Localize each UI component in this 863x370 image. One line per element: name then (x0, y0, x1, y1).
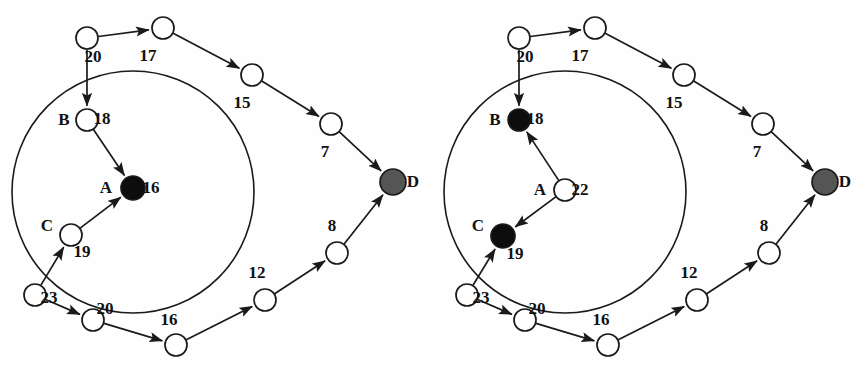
node-value-label-L2: 17 (140, 46, 158, 65)
node-value-label-LA: 16 (143, 178, 160, 197)
node-letter-label-C-right: C (472, 216, 484, 235)
edge-R4-to-RD (771, 132, 813, 171)
edge-LB-to-LA (93, 130, 124, 176)
node-circle-R4[interactable] (752, 113, 774, 135)
node-LC-C[interactable]: 19C (41, 216, 91, 261)
edge-R3-to-R4 (694, 81, 751, 116)
edge-R1-to-R2 (530, 30, 581, 37)
node-value-label-L9: 8 (328, 216, 337, 235)
node-circle-L2[interactable] (152, 17, 174, 39)
node-value-label-R5: 23 (473, 288, 490, 307)
edge-L6-to-L7 (104, 323, 162, 341)
node-circle-LA[interactable] (121, 176, 145, 200)
node-L2[interactable]: 17 (140, 17, 175, 65)
node-R8[interactable]: 12 (681, 263, 709, 311)
edge-L3-to-L4 (262, 81, 319, 116)
node-circle-L4[interactable] (320, 113, 342, 135)
node-letter-label-B-right: B (489, 110, 500, 129)
node-circle-L3[interactable] (241, 64, 263, 86)
node-circle-R8[interactable] (686, 289, 708, 311)
node-L3[interactable]: 15 (234, 64, 264, 112)
node-circle-L7[interactable] (165, 334, 187, 356)
node-value-label-R1: 20 (517, 47, 534, 66)
node-L4[interactable]: 7 (320, 113, 342, 161)
edge-L9-to-LD (344, 195, 383, 244)
node-L9[interactable]: 8 (326, 216, 348, 264)
node-circle-RD[interactable] (812, 169, 838, 195)
node-RA-A[interactable]: 22A (534, 179, 589, 201)
node-value-label-RB: 18 (527, 109, 544, 128)
node-LB-B[interactable]: 18B (58, 109, 110, 131)
node-value-label-LC: 19 (74, 242, 91, 261)
edge-RA-to-RB (527, 132, 559, 181)
edge-group-right (473, 30, 815, 341)
node-value-label-L1: 20 (85, 47, 102, 66)
node-L8[interactable]: 12 (249, 263, 277, 311)
edge-L1-to-L2 (98, 30, 149, 37)
edge-L5-to-LC (41, 247, 64, 285)
graph-panel-left: 2017157D18B16A19C232016128 (12, 17, 419, 356)
node-R3[interactable]: 15 (666, 64, 696, 112)
node-value-label-RA: 22 (572, 180, 589, 199)
node-value-label-L4: 7 (321, 142, 330, 161)
node-value-label-R9: 8 (760, 216, 769, 235)
figure-canvas: 2017157D18B16A19C2320161282017157D18B22A… (0, 0, 863, 370)
node-letter-label-A-right: A (534, 180, 547, 199)
node-L7[interactable]: 16 (161, 310, 188, 356)
node-R7[interactable]: 16 (593, 310, 620, 356)
node-value-label-R4: 7 (753, 142, 762, 161)
node-circle-R2[interactable] (584, 17, 606, 39)
edge-R8-to-R9 (707, 261, 757, 294)
node-circle-L9[interactable] (326, 242, 348, 264)
edge-RA-to-RC (515, 197, 556, 227)
edge-L8-to-L9 (275, 261, 325, 294)
node-value-label-L6: 20 (97, 299, 114, 318)
node-circle-L8[interactable] (254, 289, 276, 311)
node-L5[interactable]: 23 (24, 284, 58, 307)
edge-R5-to-RC (473, 249, 495, 285)
edge-R6-to-R7 (536, 323, 594, 341)
graph-panel-right: 2017157D18B22A19C232016128 (444, 17, 851, 356)
node-value-label-R7: 16 (593, 310, 610, 329)
node-RC-C[interactable]: 19C (472, 216, 524, 263)
node-LD-D[interactable]: D (380, 169, 419, 195)
node-circle-L1[interactable] (76, 27, 98, 49)
edge-R7-to-R8 (618, 306, 684, 339)
node-circle-R9[interactable] (758, 242, 780, 264)
node-value-label-R6: 20 (529, 299, 546, 318)
node-LA-A[interactable]: 16A (100, 176, 160, 200)
node-value-label-L8: 12 (249, 263, 266, 282)
edge-L4-to-LD (339, 132, 381, 171)
node-value-label-R8: 12 (681, 263, 698, 282)
node-value-label-L5: 23 (41, 288, 58, 307)
node-R9[interactable]: 8 (758, 216, 780, 264)
node-R4[interactable]: 7 (752, 113, 774, 161)
node-L1[interactable]: 20 (76, 27, 102, 66)
node-RB-B[interactable]: 18B (489, 109, 543, 131)
node-value-label-R3: 15 (666, 93, 683, 112)
node-value-label-L7: 16 (161, 310, 178, 329)
node-value-label-RC: 19 (507, 244, 524, 263)
node-circle-R1[interactable] (508, 27, 530, 49)
node-RD-D[interactable]: D (812, 169, 851, 195)
node-letter-label-D-right: D (839, 172, 851, 191)
edge-LC-to-LA (80, 197, 121, 228)
node-letter-label-D-left: D (407, 172, 419, 191)
node-R5[interactable]: 23 (456, 284, 490, 307)
node-R2[interactable]: 17 (572, 17, 607, 65)
node-value-label-R2: 17 (572, 46, 590, 65)
node-value-label-LB: 18 (94, 109, 111, 128)
graph-diagram: 2017157D18B16A19C2320161282017157D18B22A… (0, 0, 863, 370)
node-R1[interactable]: 20 (508, 27, 534, 66)
node-letter-label-B-left: B (58, 110, 69, 129)
edge-group-left (41, 30, 383, 341)
edge-L2-to-L3 (173, 33, 239, 68)
node-circle-LD[interactable] (380, 169, 406, 195)
node-circle-R7[interactable] (597, 334, 619, 356)
edge-L7-to-L8 (186, 306, 252, 339)
node-letter-label-C-left: C (41, 216, 53, 235)
node-letter-label-A-left: A (100, 178, 113, 197)
edge-R9-to-RD (776, 195, 815, 244)
node-circle-R3[interactable] (673, 64, 695, 86)
node-value-label-L3: 15 (234, 93, 251, 112)
